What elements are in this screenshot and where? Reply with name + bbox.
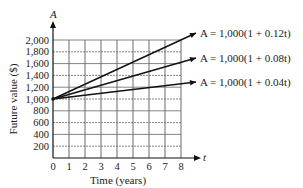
start-point <box>51 97 55 101</box>
series-line <box>53 58 196 99</box>
chart: 2004006008001,0001,2001,4001,6001,8002,0… <box>0 0 303 188</box>
series-line <box>53 33 196 99</box>
y-tick-label: 800 <box>33 105 49 116</box>
y-tick-label: 200 <box>33 141 49 152</box>
y-tick-label: 2,000 <box>25 35 49 46</box>
x-tick-label: 7 <box>162 161 167 172</box>
series-line <box>53 82 196 99</box>
y-tick-label: 1,400 <box>25 70 49 81</box>
x-tick-label: 4 <box>114 161 120 172</box>
x-axis-arrow-icon <box>194 155 201 161</box>
y-tick-label: 1,600 <box>25 58 49 69</box>
y-tick-label: 1,000 <box>25 94 49 105</box>
y-axis-variable: A <box>49 8 57 20</box>
y-axis-arrow-icon <box>50 21 56 28</box>
y-tick-label: 400 <box>33 129 49 140</box>
x-tick-label: 1 <box>66 161 71 172</box>
y-tick-label: 1,200 <box>25 82 49 93</box>
x-tick-label: 3 <box>98 161 103 172</box>
chart-svg: 2004006008001,0001,2001,4001,6001,8002,0… <box>0 0 303 188</box>
x-axis-title: Time (years) <box>90 174 146 187</box>
series-equation-label: A = 1,000(1 + 0.12t) <box>200 27 291 40</box>
x-axis-variable: t <box>203 151 207 163</box>
y-tick-label: 1,800 <box>25 46 49 57</box>
x-tick-label: 5 <box>130 161 135 172</box>
x-tick-label: 2 <box>82 161 87 172</box>
x-tick-label: 6 <box>146 161 151 172</box>
x-tick-label: 8 <box>178 161 183 172</box>
series-equation-label: A = 1,000(1 + 0.08t) <box>200 52 291 65</box>
y-axis-title: Future value ($) <box>7 63 20 134</box>
x-tick-label: 0 <box>50 161 55 172</box>
series-equation-label: A = 1,000(1 + 0.04t) <box>200 76 291 89</box>
y-tick-label: 600 <box>33 117 49 128</box>
